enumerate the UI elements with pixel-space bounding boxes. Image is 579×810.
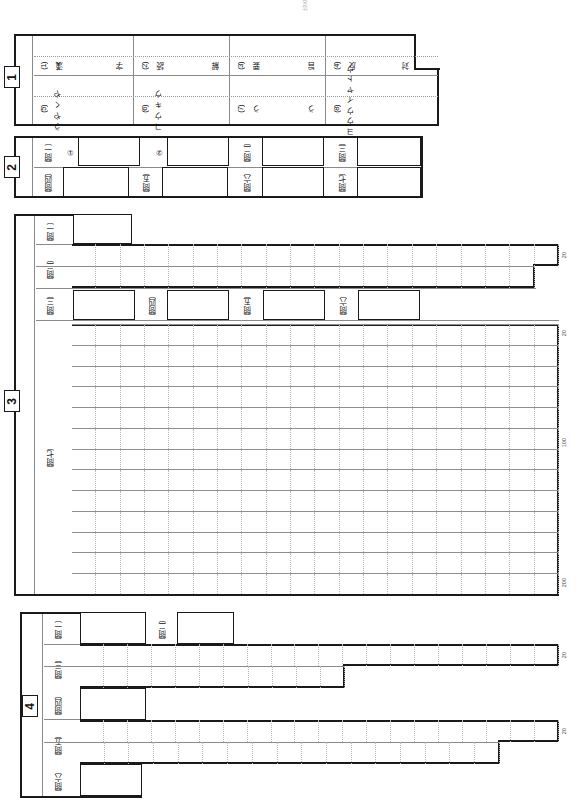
s3-row-divider xyxy=(36,244,72,245)
section-4-number-text: 4 xyxy=(23,703,37,710)
s2-label-q6: 〔問六〕 xyxy=(233,169,261,196)
s2-label-q1: 〔問一〕 xyxy=(34,139,62,166)
s4-row-divider xyxy=(44,644,80,645)
s1-col-divider xyxy=(133,36,134,124)
s4-answer-q6[interactable] xyxy=(80,764,142,796)
s3-q7-grid-row[interactable] xyxy=(72,345,559,366)
section-1-number: 1 xyxy=(4,66,20,88)
s1-item-4[interactable]: (4) xyxy=(329,56,343,75)
s4-q3-cells-row2[interactable] xyxy=(80,666,345,688)
s3-q7-grid-row[interactable] xyxy=(72,490,559,511)
s3-marker-200: 200 xyxy=(561,578,567,588)
s3-q7-grid-row[interactable] xyxy=(72,449,559,470)
s4-q3-limit-marker: 20 xyxy=(561,652,567,659)
s3-q7-grid-row[interactable] xyxy=(72,407,559,428)
s2-label-q3: 〔問三〕 xyxy=(328,139,356,166)
s1-item-1-trail: 字 xyxy=(112,56,126,75)
s3-label-q2: 〔問二〕 xyxy=(36,252,64,288)
answer-sheet-page: 国語 解答用紙 受検番号 氏名 1 (1) 漢 字 (2) 読 解 (3) 要 xyxy=(0,0,579,810)
s2-label-q2: 〔問二〕 xyxy=(233,139,261,166)
s3-q2-cells-row1[interactable] xyxy=(72,244,559,266)
s1-item-1[interactable]: (1) xyxy=(36,56,50,75)
s1-item-4-no: (4) xyxy=(332,62,341,70)
s3-q7-grid-row[interactable] xyxy=(72,469,559,490)
section-2-number-text: 2 xyxy=(5,164,19,171)
s3-answer-q3[interactable] xyxy=(73,290,135,320)
s1-item-3[interactable]: (3) xyxy=(233,56,247,75)
s2-sub-2: ② xyxy=(152,139,166,166)
section-4-number: 4 xyxy=(22,695,38,717)
s2-answer-q3[interactable] xyxy=(357,137,421,166)
s1-item-5-no: (5) xyxy=(39,105,48,113)
section-3-number-text: 3 xyxy=(5,398,19,405)
s1-item-5-kana: うやくや xyxy=(52,98,126,120)
s4-label-q2: 〔問二〕 xyxy=(148,616,176,644)
s1-item-7-no: (7) xyxy=(236,105,245,113)
s1-mid-line xyxy=(34,75,438,76)
s3-answer-q4[interactable] xyxy=(167,290,229,320)
section-1-mask xyxy=(416,34,441,68)
s3-q7-grid-row[interactable] xyxy=(72,386,559,407)
section-2-number: 2 xyxy=(4,156,20,178)
s3-answer-q6[interactable] xyxy=(358,290,420,320)
page-header-fragment: 国語 解答用紙 受検番号 氏名 xyxy=(300,0,560,11)
s1-item-3-trail: 旨 xyxy=(304,56,318,75)
s3-row-divider xyxy=(36,320,559,321)
s4-answer-q1[interactable] xyxy=(80,612,146,644)
s3-q7-grid-row[interactable] xyxy=(72,511,559,532)
s1-item-1-no: (1) xyxy=(39,62,48,70)
s3-q7-grid-row[interactable] xyxy=(72,366,559,387)
s1-item-6[interactable]: (6) xyxy=(137,98,151,120)
s3-label-q5: 〔問五〕 xyxy=(233,292,261,320)
s3-q7-grid-row[interactable] xyxy=(72,552,559,573)
s4-q3-cells-row1[interactable] xyxy=(80,644,559,666)
s3-q7-grid-row[interactable] xyxy=(72,573,559,594)
s2-answer-q5[interactable] xyxy=(162,167,228,197)
s1-item-2[interactable]: (2) xyxy=(137,56,151,75)
section-3-outer-bottom xyxy=(14,594,559,596)
s3-q2-cells-row2[interactable] xyxy=(72,266,535,288)
s3-q7-grid-row[interactable] xyxy=(72,324,559,345)
s1-col-divider xyxy=(32,36,33,124)
s3-q7-grid-row[interactable] xyxy=(72,532,559,553)
s2-answer-q1-b[interactable] xyxy=(167,137,229,166)
s1-item-3-no: (3) xyxy=(236,62,245,70)
s1-item-8[interactable]: (8) xyxy=(329,98,343,120)
s2-sub-1: ① xyxy=(63,139,77,166)
s3-answer-q1[interactable] xyxy=(73,214,132,244)
s1-item-6-kana: コウキウ xyxy=(153,98,223,120)
section-1-step-top xyxy=(414,68,440,70)
s4-row-divider xyxy=(44,719,80,720)
s3-q7-grid-row[interactable] xyxy=(72,428,559,449)
s1-item-2-no: (2) xyxy=(140,62,149,70)
s4-label-q1: 〔問一〕 xyxy=(44,616,72,644)
s1-item-6-no: (6) xyxy=(140,105,149,113)
s2-answer-q1-a[interactable] xyxy=(78,137,140,166)
s4-q5-cells-row1[interactable] xyxy=(80,720,559,742)
s2-label-q5: 〔問五〕 xyxy=(132,169,160,196)
s3-marker-20: 20 xyxy=(561,330,567,337)
s4-label-q6: 〔問六〕 xyxy=(44,768,72,796)
s2-answer-q7[interactable] xyxy=(357,167,421,197)
s1-item-2-lead: 読 xyxy=(153,56,167,75)
s2-answer-q6[interactable] xyxy=(262,167,324,197)
s1-item-3-lead: 要 xyxy=(249,56,263,75)
s4-q5-cells-row2[interactable] xyxy=(80,742,500,764)
s1-guide-line xyxy=(34,96,438,97)
s4-answer-q4[interactable] xyxy=(80,688,146,720)
s1-item-5[interactable]: (5) xyxy=(36,98,50,120)
s3-grid-q7-rows[interactable] xyxy=(72,324,559,594)
s2-answer-q4[interactable] xyxy=(63,167,129,197)
s2-answer-q2[interactable] xyxy=(262,137,324,166)
section-4-outer-bottom xyxy=(20,796,142,798)
s1-item-7[interactable]: (7) xyxy=(233,98,247,120)
section-4-outer-top xyxy=(20,612,80,614)
s3-answer-q5[interactable] xyxy=(263,290,325,320)
section-1-number-text: 1 xyxy=(5,74,19,81)
page-header-text: 国語 解答用紙 受検番号 氏名 xyxy=(300,0,309,11)
s1-col-divider xyxy=(229,36,230,124)
s1-col-divider xyxy=(325,36,326,124)
s3-marker-100: 100 xyxy=(561,438,567,448)
s1-item-7-trail: う xyxy=(304,98,318,120)
s4-answer-q2[interactable] xyxy=(177,612,234,644)
